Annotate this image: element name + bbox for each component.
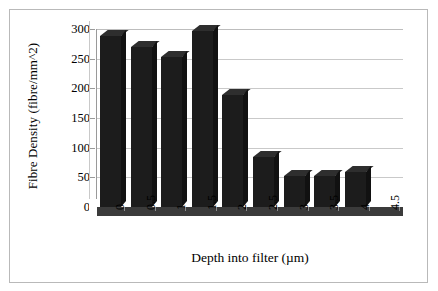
x-axis-tick-label: 2.5: [266, 180, 281, 210]
x-axis-tick-label: 1: [174, 180, 189, 210]
x-axis-tick-label: 1.5: [205, 180, 220, 210]
x-axis-tick-mark: [216, 207, 217, 211]
x-axis-tick-label: 4.5: [388, 180, 403, 210]
x-axis-tick-label: 0.5: [144, 180, 159, 210]
x-axis-tick-mark: [338, 207, 339, 211]
x-axis-tick-mark: [369, 207, 370, 211]
chart-page: Fibre Density (fibre/mm^2) 0501001502002…: [0, 0, 438, 291]
y-axis-title: Fibre Density (fibre/mm^2): [25, 31, 41, 201]
x-axis-tick-mark: [399, 207, 400, 211]
y-axis-tick-label: 300: [56, 23, 90, 35]
x-axis-tick-mark: [185, 207, 186, 211]
x-axis-tick-mark: [124, 207, 125, 211]
x-axis-tick-label: 2: [235, 180, 250, 210]
x-axis-title: Depth into filter (µm): [100, 250, 400, 266]
y-axis-tick-label: 50: [56, 171, 90, 183]
y-axis-tick-label: 100: [56, 142, 90, 154]
x-axis-tick-mark: [277, 207, 278, 211]
y-axis-tick-label: 0: [56, 201, 90, 213]
y-axis-tick-label: 250: [56, 53, 90, 65]
x-axis-tick-mark: [155, 207, 156, 211]
x-axis-tick-label: 3.5: [327, 180, 342, 210]
x-axis-tick-label: 4: [358, 180, 373, 210]
x-axis-tick-mark: [246, 207, 247, 211]
y-axis-tick-label: 200: [56, 82, 90, 94]
y-axis-tick-labels: 050100150200250300: [52, 29, 90, 207]
x-axis-tick-label: 3: [297, 180, 312, 210]
gridline: [97, 29, 403, 30]
x-axis-tick-labels: 00.511.522.533.544.5: [97, 210, 403, 248]
y-axis-tick-label: 150: [56, 112, 90, 124]
x-axis-tick-mark: [308, 207, 309, 211]
bar-chart: Fibre Density (fibre/mm^2) 0501001502002…: [0, 0, 438, 291]
x-axis-tick-label: 0: [113, 180, 128, 210]
